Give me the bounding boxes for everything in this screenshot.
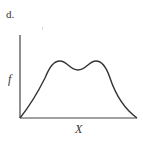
plot-area	[0, 0, 143, 141]
y-axis-label: f	[8, 72, 11, 87]
x-axis-label: X	[75, 122, 82, 137]
distribution-curve	[20, 61, 137, 118]
